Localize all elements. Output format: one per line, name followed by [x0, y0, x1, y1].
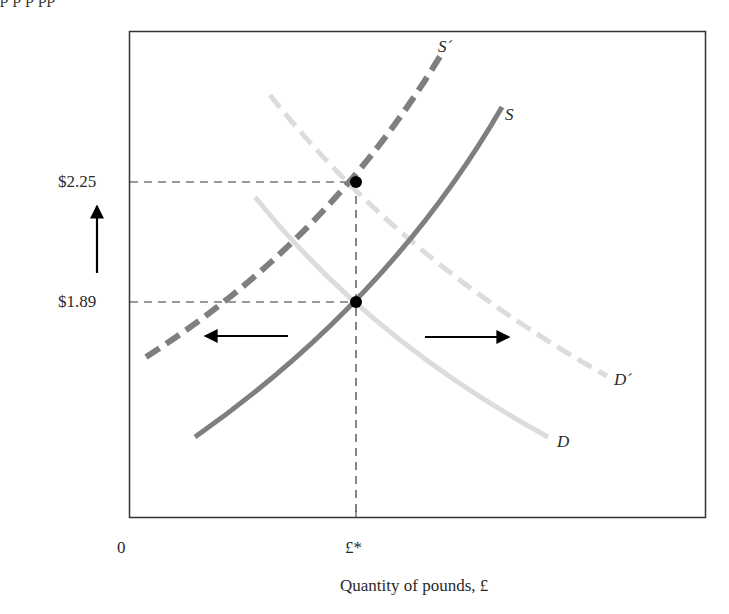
supply-curve-s-prime: [146, 53, 442, 357]
curve-label-d-prime: D´: [614, 370, 632, 390]
equilibrium-point-initial: [350, 296, 362, 308]
curve-label-s: S: [505, 105, 514, 125]
equilibrium-point-new: [350, 176, 362, 188]
y-tick-label-1-89: $1.89: [58, 292, 96, 312]
y-tick-label-2-25: $2.25: [58, 172, 96, 192]
curve-label-s-prime: S´: [438, 37, 452, 57]
origin-label: 0: [117, 538, 126, 558]
supply-demand-diagram: [0, 0, 729, 614]
plot-frame: [130, 32, 706, 518]
curve-label-d: D: [557, 432, 569, 452]
x-axis-label: Quantity of pounds, £: [340, 576, 488, 596]
supply-curve-s: [195, 107, 502, 437]
x-tick-label-q-star: £*: [345, 538, 362, 558]
